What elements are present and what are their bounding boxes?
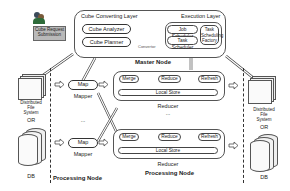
local-store-2: Local Store xyxy=(118,147,218,154)
map-component-2: Map xyxy=(68,138,98,148)
map-component-1: Map xyxy=(68,80,98,90)
processing-node-label-2: Processing Node xyxy=(145,170,194,176)
user-icon xyxy=(33,12,45,24)
mapper-ellipsis: ... xyxy=(74,117,92,123)
reduce-component-1: Reduce xyxy=(158,75,181,83)
reducer-label-1: Reducer xyxy=(155,103,181,109)
reduce-component-2: Reduce xyxy=(158,133,181,141)
mapper-label-1: Mapper xyxy=(70,93,96,99)
task-scheduler: Task Scheduler xyxy=(167,36,198,45)
cube-converting-layer-title: Cube Converting Layer xyxy=(81,13,138,19)
left-distributed-file-system-icon xyxy=(18,74,46,98)
right-fs-label: Distributed File System xyxy=(247,107,281,122)
cube-analyzer: Cube Analyzer xyxy=(82,24,131,34)
left-boundary xyxy=(50,68,51,183)
refresh-component-2: Refresh xyxy=(198,133,221,141)
execution-layer-title: Execution Layer xyxy=(181,13,220,19)
right-db-label: DB xyxy=(257,174,271,180)
right-db-icon xyxy=(250,134,280,172)
left-fs-label: Distributed File System xyxy=(14,100,48,115)
cube-request-submission-box: Cube Request Submission xyxy=(33,26,66,41)
right-boundary xyxy=(243,68,244,183)
cube-request-label-2: Submission xyxy=(34,32,65,37)
task-scheduling-factory: Task Scheduling Factory xyxy=(200,25,219,45)
left-db-label: DB xyxy=(24,173,38,179)
convertor-label: Convertor xyxy=(138,44,156,49)
left-db-icon xyxy=(18,128,48,166)
factory-line-3: Factory xyxy=(201,38,218,44)
local-store-1: Local Store xyxy=(118,89,218,96)
cube-planner: Cube Planner xyxy=(82,37,131,47)
left-or-label: OR xyxy=(24,117,38,123)
job-scheduler: Job Scheduler xyxy=(167,25,198,34)
reducer-label-2: Reducer xyxy=(155,161,181,167)
merge-component-1: Merge xyxy=(119,75,139,83)
right-distributed-file-system-icon xyxy=(248,76,276,102)
refresh-component-1: Refresh xyxy=(198,75,221,83)
merge-component-2: Merge xyxy=(119,133,139,141)
master-node-label: Master Node xyxy=(135,59,171,65)
reducer-ellipsis: ... xyxy=(159,110,177,116)
processing-node-label-1: Processing Node xyxy=(53,175,102,181)
right-or-label: OR xyxy=(257,124,271,130)
mapper-label-2: Mapper xyxy=(70,151,96,157)
